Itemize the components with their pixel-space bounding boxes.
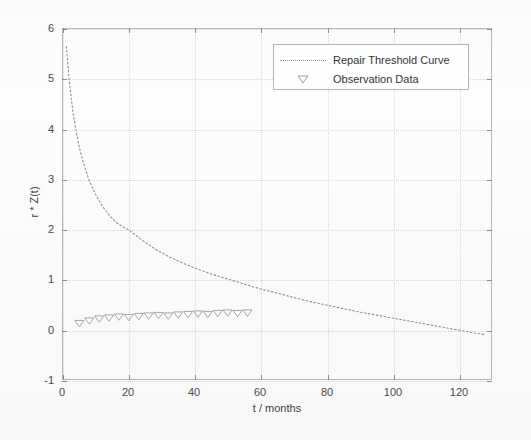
ytick-label-3: 3 [26, 173, 54, 185]
data-marker [95, 316, 104, 322]
xtick-label-100: 100 [384, 386, 402, 398]
xtick-label-60: 60 [254, 386, 266, 398]
data-marker [144, 313, 153, 319]
x-axis-label: t / months [62, 402, 492, 414]
legend-item-repair-threshold-curve: Repair Threshold Curve [280, 50, 460, 69]
xtick-label-120: 120 [450, 386, 468, 398]
legend-item-observation-data: Observation Data [280, 69, 460, 88]
xtick-label-40: 40 [188, 386, 200, 398]
data-marker [174, 312, 183, 318]
ytick--1 [62, 381, 67, 382]
legend-label-observation-data: Observation Data [333, 73, 419, 85]
data-marker [124, 314, 133, 320]
data-marker [184, 311, 193, 317]
gridline-y--1 [63, 381, 491, 382]
triangle-down-icon [280, 72, 326, 86]
xtick-label-0: 0 [59, 386, 65, 398]
data-marker [203, 311, 212, 317]
xtick-label-20: 20 [122, 386, 134, 398]
data-marker [243, 310, 252, 316]
ytick-label-0: 0 [26, 324, 54, 336]
xtick-label-80: 80 [321, 386, 333, 398]
ytick-right--1 [487, 381, 492, 382]
data-marker [75, 320, 84, 326]
figure-canvas: r * Z(t) [0, 0, 531, 440]
data-marker [134, 313, 143, 319]
ytick-label-1: 1 [26, 273, 54, 285]
data-marker [193, 311, 202, 317]
ytick-label-4: 4 [26, 123, 54, 135]
ytick-label-5: 5 [26, 72, 54, 84]
dotted-line-icon [280, 53, 326, 67]
series-observation-data [75, 310, 252, 327]
legend: Repair Threshold Curve Observation Data [273, 44, 469, 90]
ytick-label--1: -1 [26, 374, 54, 386]
data-marker [114, 314, 123, 320]
data-marker [105, 315, 114, 321]
ytick-label-6: 6 [26, 22, 54, 34]
data-marker [223, 310, 232, 316]
data-marker [164, 313, 173, 319]
data-marker [233, 310, 242, 316]
data-marker [213, 310, 222, 316]
data-marker [154, 312, 163, 318]
legend-label-repair-threshold-curve: Repair Threshold Curve [333, 54, 450, 66]
ytick-label-2: 2 [26, 223, 54, 235]
data-marker [85, 318, 94, 324]
